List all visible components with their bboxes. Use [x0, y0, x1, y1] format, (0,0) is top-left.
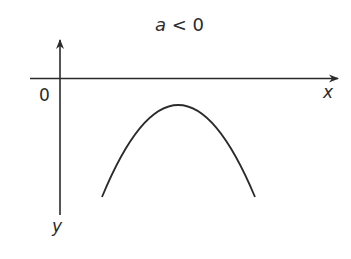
title-var: a: [155, 14, 166, 35]
x-axis-label: x: [323, 84, 333, 101]
title-value: 0: [193, 14, 204, 35]
parabola-curve: [102, 105, 255, 197]
title-op: <: [172, 14, 187, 35]
y-axis-label: y: [52, 218, 62, 235]
title-condition: a < 0: [155, 16, 204, 34]
origin-label: 0: [39, 87, 50, 104]
